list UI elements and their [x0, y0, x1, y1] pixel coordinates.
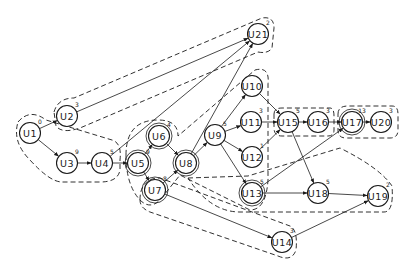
edge-u4-u21 — [110, 41, 249, 156]
node-u3: U39 — [57, 148, 80, 174]
node-label: U14 — [272, 237, 293, 248]
node-u16: U163 — [308, 107, 331, 133]
node-label: U11 — [241, 117, 262, 128]
edge-u9-u12 — [224, 140, 243, 151]
node-weight: 4 — [167, 121, 171, 128]
node-u7: U78 — [142, 175, 168, 203]
node-weight: 3 — [326, 107, 330, 114]
node-label: U21 — [248, 29, 269, 40]
node-weight: 0 — [38, 118, 42, 125]
node-label: U6 — [152, 131, 166, 142]
node-u11: U113 — [241, 107, 264, 133]
node-weight: 5 — [110, 148, 114, 155]
node-u19: U192 — [368, 181, 391, 207]
node-u6: U64 — [146, 121, 172, 149]
node-u4: U45 — [92, 148, 115, 174]
node-weight: 2 — [386, 181, 390, 188]
node-u14: U143 — [272, 227, 295, 253]
edge-u14-u19 — [292, 201, 369, 238]
precedence-graph: U10U23U39U45U59U64U78U8U95U10U113U121U13… — [0, 0, 407, 269]
node-weight: 3 — [259, 107, 263, 114]
node-u10: U10 — [242, 76, 263, 97]
node-label: U12 — [242, 152, 263, 163]
edge-u2-u21 — [77, 38, 248, 112]
node-u17: U1713 — [339, 107, 366, 135]
node-weight: 5 — [260, 178, 264, 185]
node-label: U15 — [278, 117, 299, 128]
node-u8: U8 — [173, 150, 199, 176]
node-label: U18 — [308, 188, 329, 199]
node-u15: U155 — [278, 107, 301, 133]
node-label: U9 — [208, 130, 222, 141]
node-label: U8 — [179, 158, 193, 169]
node-u18: U185 — [308, 178, 331, 204]
node-label: U10 — [242, 81, 263, 92]
node-label: U19 — [368, 191, 389, 202]
node-weight: 3 — [75, 101, 79, 108]
node-label: U5 — [131, 158, 145, 169]
node-weight: 9 — [146, 148, 150, 155]
node-u5: U59 — [125, 148, 151, 176]
edge-u18-u19 — [329, 194, 368, 196]
node-label: U17 — [342, 117, 363, 128]
node-weight: 1 — [260, 142, 264, 149]
node-u13: U135 — [239, 178, 265, 206]
node-label: U1 — [23, 128, 37, 139]
node-weight: 8 — [163, 175, 167, 182]
node-u20: U203 — [371, 107, 394, 133]
node-u12: U121 — [242, 142, 265, 168]
node-weight: 2 — [266, 19, 270, 26]
node-u2: U23 — [57, 101, 80, 127]
node-weight: 3 — [389, 107, 393, 114]
nodes: U10U23U39U45U59U64U78U8U95U10U113U121U13… — [20, 19, 394, 253]
node-label: U2 — [60, 111, 74, 122]
node-weight: 5 — [223, 120, 227, 127]
group-outline-u18-u19 — [188, 148, 392, 212]
node-label: U4 — [95, 158, 109, 169]
edge-u1-u3 — [38, 140, 58, 157]
node-label: U20 — [371, 117, 392, 128]
node-label: U13 — [242, 188, 263, 199]
node-u1: U10 — [20, 118, 43, 144]
node-label: U7 — [148, 185, 162, 196]
edge-u9-u13 — [221, 144, 247, 184]
edge-u9-u11 — [225, 126, 241, 132]
node-weight: 3 — [290, 227, 294, 234]
node-label: U3 — [60, 158, 74, 169]
node-weight: 5 — [326, 178, 330, 185]
node-weight: 13 — [358, 107, 366, 114]
node-weight: 5 — [296, 107, 300, 114]
edges — [38, 38, 370, 238]
edge-u1-u2 — [40, 121, 58, 129]
node-weight: 9 — [75, 148, 79, 155]
node-label: U16 — [308, 117, 329, 128]
